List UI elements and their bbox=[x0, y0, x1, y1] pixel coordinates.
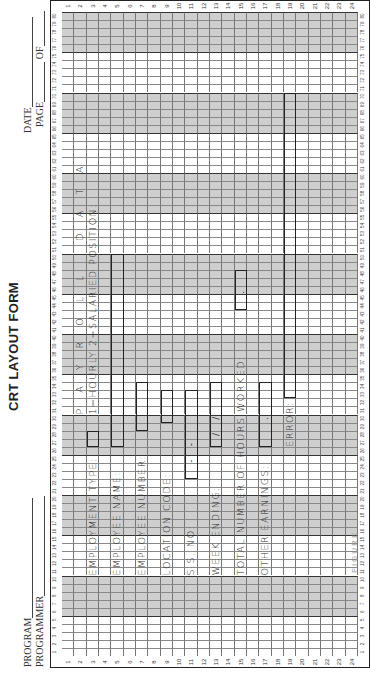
grid-cell[interactable] bbox=[321, 342, 333, 350]
grid-cell[interactable] bbox=[173, 592, 185, 600]
grid-cell[interactable] bbox=[210, 173, 222, 181]
grid-cell[interactable] bbox=[321, 12, 333, 20]
grid-cell[interactable] bbox=[148, 93, 160, 101]
grid-cell[interactable] bbox=[185, 93, 197, 101]
grid-cell[interactable] bbox=[99, 398, 111, 406]
grid-cell[interactable] bbox=[198, 326, 210, 334]
grid-cell[interactable] bbox=[321, 398, 333, 406]
grid-cell[interactable] bbox=[99, 535, 111, 543]
grid-cell[interactable] bbox=[296, 640, 308, 648]
grid-cell[interactable] bbox=[161, 20, 173, 28]
grid-cell[interactable] bbox=[259, 44, 271, 52]
grid-cell[interactable] bbox=[259, 447, 271, 455]
grid-cell[interactable] bbox=[222, 439, 234, 447]
grid-cell[interactable] bbox=[210, 374, 222, 382]
grid-cell[interactable] bbox=[222, 101, 234, 109]
grid-cell[interactable] bbox=[210, 366, 222, 374]
grid-cell[interactable] bbox=[333, 205, 345, 213]
grid-cell[interactable] bbox=[210, 181, 222, 189]
grid-cell[interactable] bbox=[62, 358, 74, 366]
grid-cell[interactable] bbox=[222, 519, 234, 527]
grid-cell[interactable] bbox=[198, 398, 210, 406]
grid-cell[interactable] bbox=[259, 52, 271, 60]
grid-cell[interactable] bbox=[136, 20, 148, 28]
grid-cell[interactable] bbox=[259, 648, 271, 656]
grid-cell[interactable] bbox=[235, 262, 247, 270]
grid-cell[interactable] bbox=[259, 326, 271, 334]
grid-cell[interactable] bbox=[74, 28, 86, 36]
grid-cell[interactable] bbox=[99, 205, 111, 213]
grid-cell[interactable] bbox=[185, 640, 197, 648]
grid-cell[interactable] bbox=[235, 592, 247, 600]
grid-cell[interactable] bbox=[161, 93, 173, 101]
grid-cell[interactable] bbox=[309, 584, 321, 592]
grid-cell[interactable] bbox=[87, 60, 99, 68]
grid-cell[interactable] bbox=[99, 463, 111, 471]
grid-cell[interactable] bbox=[321, 447, 333, 455]
grid-cell[interactable] bbox=[222, 479, 234, 487]
grid-cell[interactable] bbox=[346, 117, 358, 125]
grid-cell[interactable] bbox=[272, 519, 284, 527]
grid-cell[interactable] bbox=[198, 374, 210, 382]
grid-cell[interactable] bbox=[333, 358, 345, 366]
grid-cell[interactable] bbox=[296, 584, 308, 592]
grid-cell[interactable] bbox=[62, 76, 74, 84]
grid-cell[interactable] bbox=[247, 12, 259, 20]
grid-cell[interactable] bbox=[198, 519, 210, 527]
grid-cell[interactable] bbox=[247, 584, 259, 592]
grid-cell[interactable] bbox=[210, 616, 222, 624]
grid-cell[interactable] bbox=[321, 60, 333, 68]
grid-cell[interactable] bbox=[272, 535, 284, 543]
grid-cell[interactable] bbox=[346, 60, 358, 68]
grid-cell[interactable] bbox=[309, 44, 321, 52]
grid-cell[interactable] bbox=[99, 76, 111, 84]
grid-cell[interactable] bbox=[99, 270, 111, 278]
grid-cell[interactable] bbox=[272, 479, 284, 487]
grid-cell[interactable] bbox=[62, 479, 74, 487]
grid-cell[interactable] bbox=[309, 455, 321, 463]
grid-cell[interactable] bbox=[346, 479, 358, 487]
grid-cell[interactable] bbox=[321, 205, 333, 213]
grid-cell[interactable] bbox=[99, 342, 111, 350]
grid-cell[interactable] bbox=[148, 334, 160, 342]
grid-cell[interactable] bbox=[185, 487, 197, 495]
grid-cell[interactable] bbox=[173, 254, 185, 262]
grid-cell[interactable] bbox=[222, 157, 234, 165]
grid-cell[interactable] bbox=[185, 576, 197, 584]
grid-cell[interactable] bbox=[346, 125, 358, 133]
grid-cell[interactable] bbox=[111, 44, 123, 52]
grid-cell[interactable] bbox=[161, 350, 173, 358]
grid-cell[interactable] bbox=[321, 608, 333, 616]
grid-cell[interactable] bbox=[210, 600, 222, 608]
grid-cell[interactable] bbox=[62, 471, 74, 479]
grid-cell[interactable] bbox=[148, 125, 160, 133]
grid-cell[interactable] bbox=[124, 382, 136, 390]
grid-cell[interactable] bbox=[185, 592, 197, 600]
page-line[interactable] bbox=[35, 62, 45, 102]
grid-cell[interactable] bbox=[309, 519, 321, 527]
grid-cell[interactable] bbox=[198, 648, 210, 656]
grid-cell[interactable] bbox=[309, 423, 321, 431]
grid-cell[interactable] bbox=[321, 229, 333, 237]
grid-cell[interactable] bbox=[87, 608, 99, 616]
grid-cell[interactable] bbox=[136, 197, 148, 205]
grid-cell[interactable] bbox=[74, 519, 86, 527]
grid-cell[interactable] bbox=[124, 455, 136, 463]
grid-cell[interactable] bbox=[272, 584, 284, 592]
grid-cell[interactable] bbox=[296, 294, 308, 302]
grid-cell[interactable] bbox=[235, 157, 247, 165]
grid-cell[interactable] bbox=[210, 149, 222, 157]
grid-cell[interactable] bbox=[173, 567, 185, 575]
grid-cell[interactable] bbox=[185, 382, 197, 390]
grid-cell[interactable] bbox=[148, 60, 160, 68]
grid-cell[interactable] bbox=[247, 189, 259, 197]
grid-cell[interactable] bbox=[198, 165, 210, 173]
grid-cell[interactable] bbox=[321, 519, 333, 527]
grid-cell[interactable] bbox=[284, 640, 296, 648]
grid-cell[interactable] bbox=[346, 366, 358, 374]
grid-cell[interactable] bbox=[173, 101, 185, 109]
grid-cell[interactable] bbox=[198, 350, 210, 358]
grid-cell[interactable] bbox=[173, 221, 185, 229]
grid-cell[interactable] bbox=[185, 237, 197, 245]
grid-cell[interactable] bbox=[74, 101, 86, 109]
